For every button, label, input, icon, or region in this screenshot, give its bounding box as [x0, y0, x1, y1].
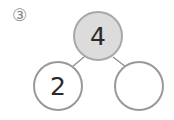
- part-circle-left: 2: [34, 62, 82, 110]
- number-bond-problem: ③ 4 2: [0, 0, 174, 120]
- whole-circle: 4: [74, 12, 122, 60]
- connector-right: [113, 57, 126, 67]
- number-bond-diagram: 4 2: [0, 0, 174, 120]
- part-circle-right-blank[interactable]: [115, 62, 163, 110]
- part-left-value: 2: [50, 72, 66, 101]
- whole-value: 4: [90, 22, 106, 51]
- connector-left: [72, 57, 84, 67]
